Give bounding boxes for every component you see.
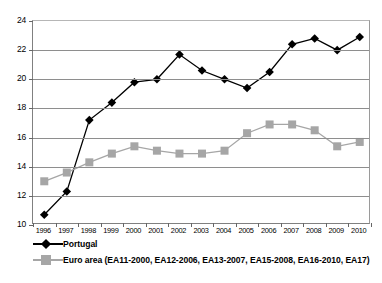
data-point-marker bbox=[63, 169, 71, 177]
legend-diamond-marker-icon bbox=[41, 239, 51, 249]
y-axis-tick-label: 20 bbox=[4, 74, 26, 83]
data-point-marker bbox=[356, 138, 364, 146]
data-point-marker bbox=[198, 150, 206, 158]
legend-item[interactable]: Euro area (EA11-2000, EA12-2006, EA13-20… bbox=[33, 252, 378, 268]
gridline bbox=[33, 138, 369, 139]
data-point-marker bbox=[243, 129, 251, 137]
data-point-marker bbox=[85, 158, 93, 166]
legend-item[interactable]: Portugal bbox=[33, 236, 378, 252]
y-axis-tick-label: 10 bbox=[4, 220, 26, 229]
y-axis-tick-label: 24 bbox=[4, 16, 26, 25]
gridline bbox=[33, 50, 369, 51]
data-point-marker bbox=[175, 150, 183, 158]
legend-label: Portugal bbox=[63, 239, 97, 249]
series-line bbox=[44, 37, 359, 215]
data-point-marker bbox=[40, 177, 48, 185]
gridline bbox=[33, 79, 369, 80]
data-point-marker bbox=[266, 120, 274, 128]
y-axis-tick bbox=[29, 21, 33, 22]
data-point-marker bbox=[355, 33, 364, 42]
y-axis-tick-label: 16 bbox=[4, 133, 26, 142]
y-axis-tick-label: 14 bbox=[4, 162, 26, 171]
legend-label: Euro area (EA11-2000, EA12-2006, EA13-20… bbox=[63, 255, 370, 265]
y-axis-tick-label: 18 bbox=[4, 103, 26, 112]
y-axis-tick-label: 22 bbox=[4, 45, 26, 54]
data-point-marker bbox=[310, 34, 319, 43]
data-point-marker bbox=[333, 142, 341, 150]
y-axis-tick bbox=[29, 79, 33, 80]
legend-symbol bbox=[33, 238, 63, 250]
line-chart: PortugalEuro area (EA11-2000, EA12-2006,… bbox=[0, 0, 382, 283]
data-point-marker bbox=[108, 150, 116, 158]
y-axis-tick bbox=[29, 196, 33, 197]
gridline bbox=[33, 167, 369, 168]
plot-area bbox=[32, 20, 370, 224]
data-point-marker bbox=[243, 84, 252, 93]
y-axis-tick bbox=[29, 50, 33, 51]
legend-symbol bbox=[33, 254, 63, 266]
y-axis-tick bbox=[29, 138, 33, 139]
data-point-marker bbox=[288, 120, 296, 128]
data-point-marker bbox=[153, 147, 161, 155]
x-axis-tick-label: 2010 bbox=[346, 227, 372, 235]
data-point-marker bbox=[130, 142, 138, 150]
data-point-marker bbox=[198, 66, 207, 75]
data-point-marker bbox=[311, 126, 319, 134]
y-axis-tick-label: 12 bbox=[4, 191, 26, 200]
series-layer bbox=[33, 21, 371, 225]
data-point-marker bbox=[221, 147, 229, 155]
legend-square-marker-icon bbox=[41, 255, 51, 265]
chart-legend: PortugalEuro area (EA11-2000, EA12-2006,… bbox=[33, 236, 378, 268]
gridline bbox=[33, 108, 369, 109]
y-axis-tick bbox=[29, 108, 33, 109]
gridline bbox=[33, 196, 369, 197]
y-axis-tick bbox=[29, 167, 33, 168]
